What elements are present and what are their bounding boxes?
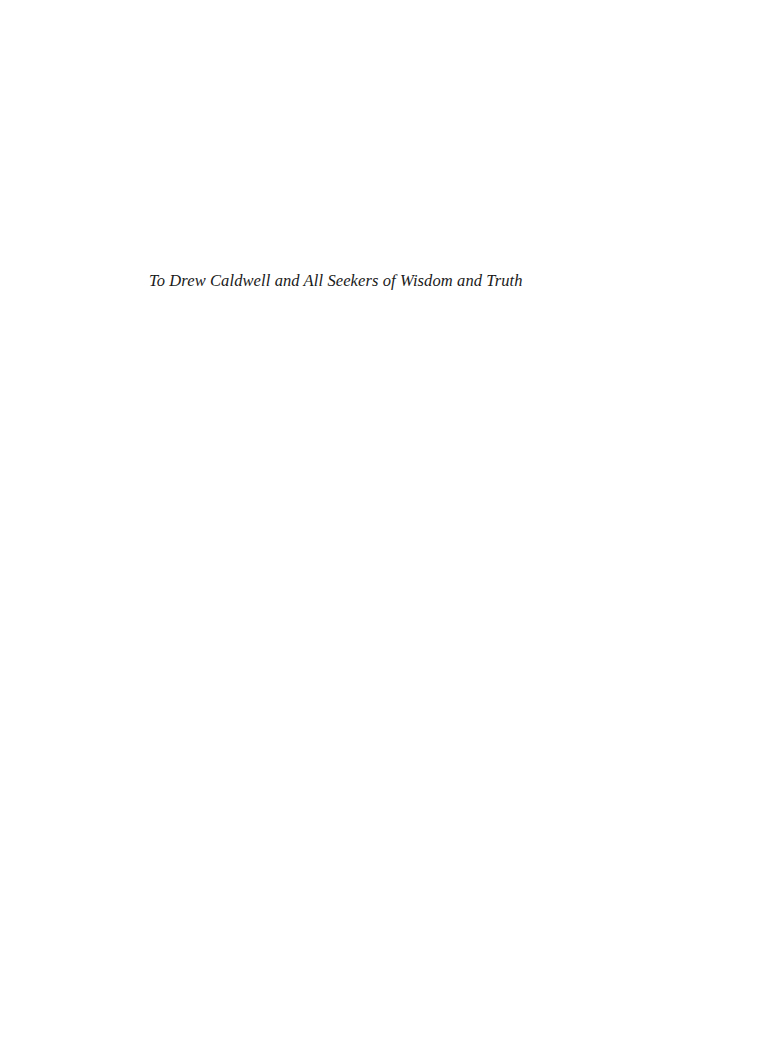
document-page: To Drew Caldwell and All Seekers of Wisd… [0, 0, 761, 1059]
dedication-text: To Drew Caldwell and All Seekers of Wisd… [149, 271, 523, 291]
